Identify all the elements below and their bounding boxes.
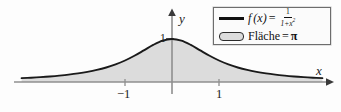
tick-label-y-pos1: 1 — [160, 33, 166, 45]
fraction-denominator-exponent: 2 — [293, 17, 296, 23]
legend-fn-name: f — [248, 11, 251, 26]
legend-box: f(x) = 1 1+x2 Fläche = π — [213, 7, 331, 45]
legend-item-function: f(x) = 1 1+x2 — [214, 9, 330, 27]
legend-fn-arg: (x) — [253, 11, 266, 26]
legend-area-value: π — [291, 29, 298, 44]
legend-fn-equals: = — [269, 11, 276, 26]
fraction-numerator: 1 — [284, 8, 292, 17]
legend-fraction: 1 1+x2 — [278, 8, 297, 27]
legend-item-area: Fläche = π — [214, 27, 330, 45]
y-axis-label: y — [179, 12, 185, 25]
legend-area-text: Fläche = π — [248, 29, 297, 44]
tick-label-x-neg1: −1 — [117, 88, 130, 101]
legend-area-equals: = — [282, 29, 289, 44]
legend-function-text: f(x) = 1 1+x2 — [248, 8, 297, 27]
tick-label-x-pos1: 1 — [216, 88, 222, 101]
line-swatch-icon — [214, 17, 248, 20]
x-axis-label: x — [316, 64, 322, 77]
math-figure: y x −1 1 1 f(x) = 1 1+x2 Fläche — [0, 0, 341, 112]
area-swatch-icon — [214, 32, 248, 41]
legend-area-label: Fläche — [248, 29, 280, 44]
